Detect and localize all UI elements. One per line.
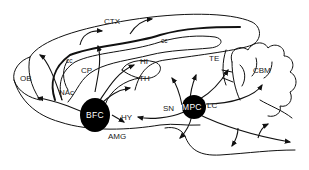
hy-label: HY — [121, 114, 132, 122]
bfc-label: BFC — [86, 111, 104, 120]
mpc-label: MPC — [182, 103, 202, 112]
cp-label: CP — [81, 67, 92, 75]
ctx-label: CTX — [104, 18, 120, 26]
hi-label: HI — [140, 58, 148, 66]
brain-diagram: BFC MPC CTX cc cc CP HI TH TE CBM OB NAc… — [0, 0, 309, 170]
sn-label: SN — [163, 105, 174, 113]
cc-left-label: cc — [66, 58, 73, 65]
nac-label: NAc — [59, 89, 74, 97]
cc-top-label: cc — [161, 38, 168, 45]
ob-label: OB — [20, 75, 32, 83]
te-label: TE — [209, 55, 219, 63]
lc-label: LC — [207, 102, 217, 110]
amg-label: AMG — [108, 133, 126, 141]
brain-outline-drawing — [0, 0, 309, 170]
cbm-label: CBM — [253, 67, 271, 75]
th-label: TH — [139, 75, 150, 83]
